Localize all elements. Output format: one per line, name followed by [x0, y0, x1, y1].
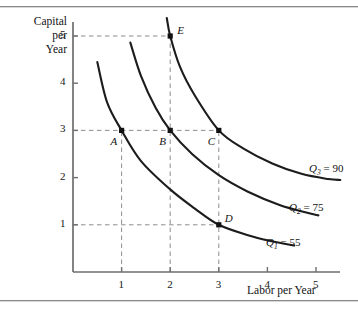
data-point-A — [119, 128, 124, 133]
data-point-E — [168, 33, 173, 38]
y-tick-label-4: 4 — [60, 76, 66, 88]
point-label-B: B — [159, 136, 166, 148]
y-axis-title-line-3: Year — [34, 42, 67, 56]
point-label-E: E — [177, 25, 184, 37]
curve-label-Q2: Q2 = 75 — [289, 202, 323, 216]
x-axis-title: Labor per Year — [247, 284, 316, 296]
data-point-B — [168, 128, 173, 133]
isoquant-figure: Capital per Year Labor per Year 12345123… — [0, 0, 358, 311]
point-label-D: D — [225, 213, 233, 225]
x-tick-label-3: 3 — [216, 279, 222, 291]
y-tick-label-3: 3 — [60, 123, 66, 135]
y-tick-label-2: 2 — [60, 171, 66, 183]
curve-label-Q3: Q3 = 90 — [309, 163, 343, 177]
y-tick-label-1: 1 — [60, 218, 66, 230]
point-label-C: C — [208, 136, 215, 148]
x-tick-label-5: 5 — [313, 279, 319, 291]
x-tick-label-4: 4 — [264, 279, 270, 291]
x-tick-label-2: 2 — [167, 279, 173, 291]
curve-label-Q1: Q1 = 55 — [266, 237, 300, 251]
data-point-D — [216, 222, 221, 227]
data-point-C — [216, 128, 221, 133]
x-tick-label-1: 1 — [119, 279, 125, 291]
isoquant-curve-Q2 — [130, 43, 318, 216]
y-tick-label-5: 5 — [60, 29, 66, 41]
isoquant-curve-Q1 — [97, 62, 294, 246]
point-label-A: A — [111, 136, 118, 148]
y-axis-title-line-1: Capital — [34, 14, 67, 28]
